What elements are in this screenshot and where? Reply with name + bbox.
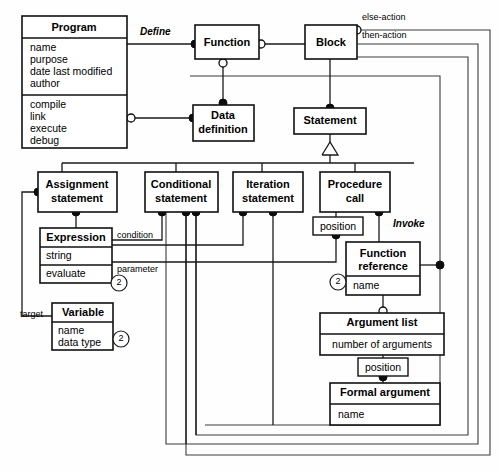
data-definition-title-line1: Data [211,109,236,121]
program-attr-name: name [30,41,56,53]
iteration-statement-title-line2: statement [242,192,294,204]
label-condition: condition [117,230,153,240]
link-attribute-position-argument[interactable]: position [358,358,408,376]
position-proc-label: position [320,220,356,232]
generalization-triangle [322,142,338,155]
class-box-block[interactable]: Block [305,25,357,59]
function-reference-title-line1: Function [360,247,407,259]
class-box-program[interactable]: Program name purpose date last modified … [22,16,127,148]
class-box-statement[interactable]: Statement [294,108,366,134]
function-reference-title-line2: reference [358,260,408,272]
data-definition-title-line2: definition [198,123,248,135]
program-attr-purpose: purpose [30,53,68,65]
argument-list-title: Argument list [347,316,418,328]
class-box-argument-list[interactable]: Argument list number of arguments [320,313,444,355]
class-box-procedure-call[interactable]: Procedure call [320,172,390,212]
class-box-assignment-statement[interactable]: Assignment statement [38,172,117,212]
label-define: Define [140,26,171,37]
class-box-formal-argument[interactable]: Formal argument name [330,383,440,425]
variable-attr-name: name [58,324,84,336]
expression-attr-string: string [46,249,72,261]
class-box-expression[interactable]: Expression string evaluate 2 [40,228,127,291]
argument-list-attr-number: number of arguments [332,338,432,350]
optional-dot-program-ops [127,114,135,122]
function-title: Function [204,36,251,48]
label-then-action: then-action [362,30,407,40]
routing-rails [166,30,490,455]
iteration-statement-title-line1: Iteration [246,178,290,190]
formal-argument-title: Formal argument [340,386,430,398]
program-op-link: link [30,110,47,122]
expression-op-evaluate: evaluate [46,267,86,279]
class-box-conditional-statement[interactable]: Conditional statement [145,172,218,212]
class-box-function-reference[interactable]: Function reference name 2 [330,242,420,295]
assignment-statement-title-line2: statement [51,192,103,204]
function-reference-multiplicity: 2 [335,276,340,286]
class-box-iteration-statement[interactable]: Iteration statement [233,172,303,212]
conditional-statement-title-line1: Conditional [151,178,212,190]
variable-attr-datatype: data type [58,336,101,348]
class-box-data-definition[interactable]: Data definition [193,105,254,141]
optional-dot-function-bottom [219,59,227,67]
program-op-execute: execute [30,122,67,134]
class-diagram-canvas: Program name purpose date last modified … [0,0,498,471]
statement-title: Statement [303,114,357,126]
program-op-debug: debug [30,134,59,146]
program-title: Program [51,21,96,33]
class-box-function[interactable]: Function [195,25,259,59]
label-invoke: Invoke [393,218,425,229]
expression-multiplicity: 2 [116,277,121,287]
program-op-compile: compile [30,98,66,110]
procedure-call-title-line1: Procedure [328,178,382,190]
variable-multiplicity: 2 [118,333,123,343]
aggregation-dot-functionreference-rail [436,261,444,269]
position-arg-label: position [365,361,401,373]
procedure-call-title-line2: call [346,192,364,204]
expression-title: Expression [46,231,106,243]
label-parameter: parameter [117,264,158,274]
label-target: target [20,309,44,319]
class-box-variable[interactable]: Variable name data type 2 [52,303,129,350]
conditional-statement-title-line2: statement [155,192,207,204]
link-attribute-position-procedure[interactable]: position [313,217,363,235]
function-reference-attr-name: name [353,279,379,291]
program-attr-date: date last modified [30,65,112,77]
assignment-statement-title-line1: Assignment [46,178,109,190]
variable-title: Variable [62,306,104,318]
formal-argument-attr-name: name [338,408,364,420]
diagram-svg: Program name purpose date last modified … [0,0,498,471]
label-else-action: else-action [362,12,406,22]
program-attr-author: author [30,77,60,89]
block-title: Block [316,36,347,48]
